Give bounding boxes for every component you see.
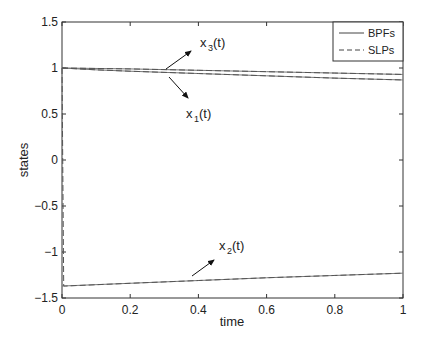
- svg-text:x: x: [219, 238, 226, 253]
- chart: 1.510.50−0.5−1−1.5 00.20.40.60.81 time s…: [0, 0, 426, 343]
- x-tick-label: 1: [400, 303, 407, 317]
- svg-text:(t): (t): [199, 106, 211, 121]
- x-tick-label: 0.4: [190, 303, 207, 317]
- y-tick-label: −1: [44, 245, 58, 259]
- y-tick-label: −1.5: [34, 291, 58, 305]
- legend-slps: SLPs: [368, 44, 395, 56]
- x-tick-label: 0.6: [258, 303, 275, 317]
- y-axis-label: states: [16, 142, 31, 177]
- y-tick-label: −0.5: [34, 199, 58, 213]
- svg-text:x: x: [200, 35, 207, 50]
- y-tick-label: 0: [51, 153, 58, 167]
- y-tick-label: 0.5: [41, 107, 58, 121]
- y-tick-label: 1: [51, 61, 58, 75]
- svg-text:(t): (t): [213, 35, 225, 50]
- svg-text:x: x: [186, 106, 193, 121]
- x-tick-label: 0.2: [122, 303, 139, 317]
- x-tick-label: 0.8: [326, 303, 343, 317]
- legend-bpfs: BPFs: [368, 27, 395, 39]
- y-tick-label: 1.5: [41, 15, 58, 29]
- plot-area: [62, 22, 403, 298]
- svg-text:(t): (t): [232, 238, 244, 253]
- x-tick-label: 0: [59, 303, 66, 317]
- x-axis-label: time: [220, 314, 245, 329]
- legend: BPFs SLPs: [333, 22, 403, 61]
